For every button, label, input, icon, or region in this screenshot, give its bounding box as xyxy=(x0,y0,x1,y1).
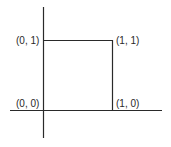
label-top-right: (1, 1) xyxy=(116,36,139,46)
diagram-canvas: (0, 1) (1, 1) (0, 0) (1, 0) xyxy=(0,0,171,147)
label-bottom-right: (1, 0) xyxy=(116,99,139,109)
label-origin: (0, 0) xyxy=(16,99,39,109)
label-top-left: (0, 1) xyxy=(16,36,39,46)
diagram-graphic xyxy=(0,0,171,147)
unit-square xyxy=(44,41,113,111)
